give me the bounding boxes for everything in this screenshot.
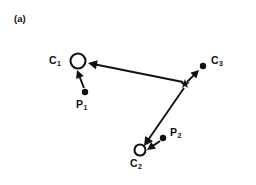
- marker-c1_circle: [71, 54, 86, 69]
- marker-p1_dot: [82, 89, 88, 95]
- arrow-shaft: [79, 76, 84, 88]
- label-c1-sub: 1: [57, 60, 61, 67]
- diagram-canvas: [0, 0, 256, 185]
- marker-p2_dot: [160, 135, 166, 141]
- arrow-p1-to-c1: [76, 70, 84, 88]
- label-p1-sub: 1: [84, 104, 88, 111]
- marker-c2_circle: [135, 145, 146, 156]
- label-p2-base: P: [170, 126, 177, 138]
- label-p1: P1: [76, 99, 87, 110]
- label-p2-sub: 2: [178, 132, 182, 139]
- label-c1-base: C: [49, 54, 57, 66]
- label-c2-sub: 2: [138, 163, 142, 170]
- arrow-shaft: [187, 75, 194, 82]
- marker-layer: [71, 54, 207, 156]
- label-p1-base: P: [76, 98, 83, 110]
- arrow-star-to-c1: [88, 60, 183, 82]
- figure-panel: (a) C1 C2 C3 P1 P2: [0, 0, 256, 185]
- arrow-shaft: [153, 141, 160, 146]
- arrow-star-to-c3: [187, 70, 199, 82]
- arrow-shaft: [96, 65, 183, 82]
- label-c2-base: C: [130, 157, 138, 169]
- label-c3-sub: 3: [219, 60, 223, 67]
- label-p2: P2: [170, 127, 181, 138]
- arrow-head: [88, 60, 98, 69]
- label-c2: C2: [130, 158, 142, 169]
- label-c3-base: C: [211, 54, 219, 66]
- label-c3: C3: [211, 55, 223, 66]
- label-c1: C1: [49, 55, 61, 66]
- marker-c3_dot: [200, 63, 206, 69]
